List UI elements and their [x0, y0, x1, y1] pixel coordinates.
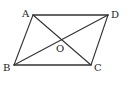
parallelogram-diagram: A D B C O [0, 0, 128, 85]
center-label-o: O [56, 43, 64, 54]
vertex-label-a: A [21, 8, 30, 19]
vertex-label-d: D [111, 9, 119, 20]
vertex-label-b: B [3, 62, 10, 73]
vertex-label-c: C [94, 62, 102, 73]
edge-ba [14, 15, 33, 65]
